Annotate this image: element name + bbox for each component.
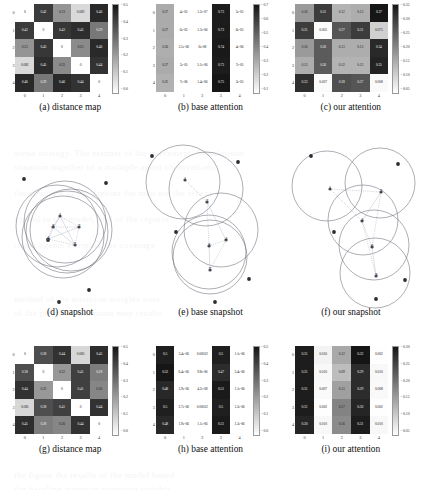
heatmap-h-xtick-0: 0 xyxy=(156,435,175,440)
heatmap-a-xtick-0: 0 xyxy=(15,93,34,98)
heatmap-c-ytick-2: 2 xyxy=(292,39,294,57)
heatmap-h-cell-3-0: 0.5 xyxy=(156,399,175,417)
heatmap-a-cell-2-1: 0.43 xyxy=(34,39,53,57)
heatmap-a-cbtick-0: - 0.5 xyxy=(121,4,128,8)
heatmap-a-cell-1-1: 0 xyxy=(34,22,53,40)
heatmap-c-cbtick-5: - 0.10 xyxy=(401,74,410,78)
panel-a-caption: (a) distance map xyxy=(39,102,101,112)
heatmap-g-colorbar-ticks: - 0.5- 0.4- 0.3- 0.2- 0.1- 0.0 xyxy=(121,346,128,434)
heatmap-i-cell-3-0: 0.31 xyxy=(295,399,314,417)
heatmap-a-cell-1-4: 0.29 xyxy=(90,22,109,40)
heatmap-b-cell-2-2: 6e-08 xyxy=(193,39,212,57)
heatmap-h-cbtick-3: - 0.2 xyxy=(261,396,268,400)
heatmap-a-cell-3-0: 0.082 xyxy=(15,57,34,75)
heatmap-b-ytick-1: 1 xyxy=(153,22,155,40)
target-point-2 xyxy=(332,230,336,234)
panel-c: 01234 0.160.310.120.130.370.310.0050.270… xyxy=(281,4,421,139)
agent-node-label-2: 3 xyxy=(208,242,211,248)
heatmap-c-ytick-1: 1 xyxy=(292,22,294,40)
heatmap-g-xtick-3: 3 xyxy=(71,435,90,440)
heatmap-h-cell-3-1: 2.7e-06 xyxy=(174,399,193,417)
target-point-0 xyxy=(150,154,154,158)
heatmap-c-cell-2-4: 0.34 xyxy=(370,39,389,57)
heatmap-i-cell-3-4: 0.002 xyxy=(370,399,389,417)
heatmap-a-cbtick-5: - 0.0 xyxy=(121,88,128,92)
heatmap-b-cells: 0.274e-051.2e-070.735e-050.276e-051.3e-0… xyxy=(156,4,249,92)
target-point-1 xyxy=(236,160,240,164)
heatmap-i-cell-3-2: 0.17 xyxy=(332,399,351,417)
panel-d: 12345 (d) snapshot xyxy=(0,142,140,317)
heatmap-h-xtick-1: 1 xyxy=(174,435,193,440)
panel-b-caption: (b) base attention xyxy=(178,102,243,112)
heatmap-i-colorbar: - 0.30- 0.25- 0.20- 0.15- 0.10- 0.05 xyxy=(392,346,409,436)
heatmap-i-cbtick-5: - 0.05 xyxy=(401,430,410,434)
heatmap-i-cell-4-0: 0.30 xyxy=(295,416,314,434)
heatmap-b-cell-0-4: 5e-05 xyxy=(230,4,249,22)
snapshot-d: 12345 xyxy=(3,142,138,305)
heatmap-a-cell-1-2: 0.43 xyxy=(53,22,72,40)
panel-g-caption: (g) distance map xyxy=(39,444,101,454)
heatmap-h-cbtick-0: - 0.5 xyxy=(261,346,268,350)
heatmap-i-colorbar-gradient xyxy=(392,346,399,436)
heatmap-i-cell-0-4: 0.002 xyxy=(370,346,389,364)
heatmap-c-x-axis: 01234 xyxy=(295,93,388,98)
heatmap-a-xtick-3: 3 xyxy=(71,93,90,98)
node-link-2-3 xyxy=(362,221,376,276)
heatmap-g-xtick-2: 2 xyxy=(53,435,72,440)
node-link-1-3 xyxy=(207,202,226,240)
heatmap-g-cell-0-2: 0.44 xyxy=(53,346,72,364)
heatmap-c-cell-2-2: 0.13 xyxy=(332,39,351,57)
target-point-4 xyxy=(57,300,61,304)
heatmap-c-cell-3-3: 0.12 xyxy=(351,57,370,75)
heatmap-g-cell-2-2: 0 xyxy=(53,381,72,399)
heatmap-h-cell-0-4: 1.1e-06 xyxy=(230,346,249,364)
heatmap-g-cell-1-4: 0.28 xyxy=(90,364,109,382)
heatmap-a-cell-4-2: 0.46 xyxy=(53,74,72,92)
heatmap-a-cell-4-1: 0.29 xyxy=(34,74,53,92)
heatmap-a-cell-1-3: 0.45 xyxy=(71,22,90,40)
coverage-circle-0 xyxy=(16,185,98,267)
heatmap-h: 01234 0.53.4e-060.000120.51.1e-060.526.4… xyxy=(153,346,269,440)
heatmap-g-cell-3-3: 0 xyxy=(71,399,90,417)
heatmap-b-cell-1-0: 0.27 xyxy=(156,22,175,40)
heatmap-c-cbtick-6: - 0.05 xyxy=(401,88,410,92)
heatmap-h-y-axis: 01234 xyxy=(153,346,155,434)
heatmap-c-cell-2-3: 0.13 xyxy=(351,39,370,57)
agent-node-label-0: 1 xyxy=(184,176,187,182)
heatmap-g-cbtick-5: - 0.0 xyxy=(121,430,128,434)
heatmap-a-cell-0-4: 0.46 xyxy=(90,4,109,22)
heatmap-g-ytick-3: 3 xyxy=(12,399,14,417)
heatmap-c: 01234 0.160.310.120.130.370.310.0050.270… xyxy=(292,4,409,98)
figure-row-bottom: 01234 00.380.440.0850.450.3800.220.410.2… xyxy=(0,346,421,488)
heatmap-b-cbtick-2: - 0.5 xyxy=(261,32,268,36)
heatmap-g-cell-3-0: 0.085 xyxy=(15,399,34,417)
target-point-0 xyxy=(309,154,313,158)
heatmap-i-cell-3-3: 0.30 xyxy=(351,399,370,417)
heatmap-c-cbtick-3: - 0.20 xyxy=(401,46,410,50)
target-point-3 xyxy=(247,277,251,281)
heatmap-a-y-axis: 01234 xyxy=(12,4,14,92)
heatmap-g-cell-4-0: 0.45 xyxy=(15,416,34,434)
coverage-circle-1 xyxy=(345,148,415,218)
heatmap-a-cbtick-1: - 0.4 xyxy=(121,21,128,25)
heatmap-i-cell-2-4: 0.008 xyxy=(370,381,389,399)
snapshot-f: 12346 xyxy=(283,142,418,305)
heatmap-c-cell-0-2: 0.12 xyxy=(332,4,351,22)
snapshot-f-canvas: 12346 xyxy=(283,142,418,310)
heatmap-b-cell-0-0: 0.27 xyxy=(156,4,175,22)
heatmap-g-ytick-4: 4 xyxy=(12,416,14,434)
heatmap-g-cbtick-3: - 0.2 xyxy=(121,396,128,400)
heatmap-g-cell-4-2: 0.26 xyxy=(53,416,72,434)
target-point-1 xyxy=(396,162,400,166)
heatmap-b-cell-1-3: 0.73 xyxy=(212,22,231,40)
heatmap-c-cells: 0.160.310.120.130.370.310.0050.270.310.0… xyxy=(295,4,388,92)
heatmap-g-colorbar: - 0.5- 0.4- 0.3- 0.2- 0.1- 0.0 xyxy=(112,346,127,436)
heatmap-b-cbtick-1: - 0.6 xyxy=(261,18,268,22)
heatmap-a-ytick-4: 4 xyxy=(12,74,14,92)
heatmap-a-cells: 00.420.230.0820.460.4200.430.450.290.230… xyxy=(15,4,108,92)
heatmap-h-ytick-3: 3 xyxy=(153,399,155,417)
heatmap-a-cell-4-4: 0 xyxy=(90,74,109,92)
heatmap-h-cell-3-2: 0.00012 xyxy=(193,399,212,417)
heatmap-i-cell-1-0: 0.31 xyxy=(295,364,314,382)
heatmap-c-cbtick-4: - 0.15 xyxy=(401,60,410,64)
